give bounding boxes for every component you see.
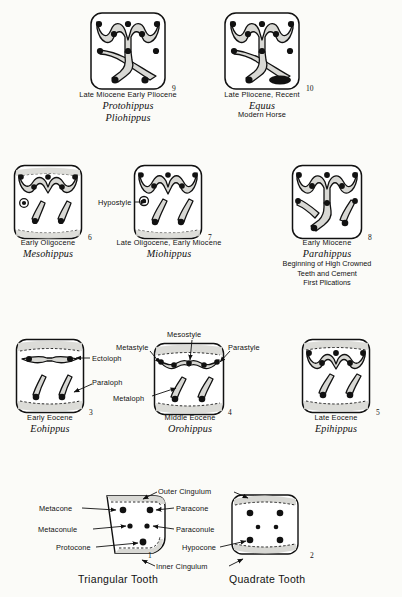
tooth-diagram-parahippus <box>290 163 364 241</box>
epihippus-svg <box>300 337 372 415</box>
eohippus-svg <box>14 337 86 415</box>
genus-note-2: Teeth and Cement <box>253 269 401 278</box>
epoch-label: Early Eocene <box>4 414 96 422</box>
cusp-paracone <box>147 507 154 514</box>
genus-note-3: First Plications <box>253 278 401 287</box>
genus-label: Parahippus <box>253 248 401 259</box>
epoch-label: Late Eocene <box>290 414 382 422</box>
tooth-diagram-eohippus <box>14 337 86 415</box>
tooth-diagram-epihippus <box>300 337 372 415</box>
cusp-hypocone <box>247 537 254 544</box>
cusp-paracone <box>277 510 284 517</box>
tooth-diagram-mesohippus <box>12 163 84 241</box>
caption-eohippus: Early Eocene Eohippus <box>4 414 96 434</box>
epoch-label: Late Pliocene, Recent <box>178 91 346 99</box>
genus-label: Epihippus <box>290 423 382 434</box>
caption-epihippus: Late Eocene Epihippus <box>290 414 382 434</box>
cusp-paraconule <box>274 525 279 530</box>
annotation-ectoloph: Ectoloph <box>92 354 122 363</box>
equus-enlarged-hypocone <box>269 75 291 84</box>
cusp-metacone <box>120 507 127 514</box>
equus-svg <box>222 10 302 92</box>
genus-label: Eohippus <box>4 423 96 434</box>
epoch-label: Early Miocene <box>253 239 401 247</box>
tooth-index-2: 2 <box>310 551 314 560</box>
mesohippus-hypostyle <box>20 199 29 208</box>
cusp-metaconule <box>256 525 261 530</box>
miohippus-svg <box>132 163 204 241</box>
epoch-label: Late Oligocene, Early Miocene <box>106 239 232 247</box>
cusp-metacone <box>247 510 254 517</box>
annotation-mesostyle: Mesostyle <box>167 330 201 339</box>
bottom-title-quadrate: Quadrate Tooth <box>229 573 305 585</box>
genus-common-name: Modern Horse <box>178 111 346 119</box>
caption-miohippus: Late Oligocene, Early Miocene Miohippus <box>106 239 232 259</box>
genus-note-1: Beginning of High Crowned <box>253 259 401 268</box>
tooth-diagram-miohippus <box>132 163 204 241</box>
annotation-paracone: Paracone <box>176 504 208 513</box>
caption-orohippus: Middle Eocene Orohippus <box>140 414 240 434</box>
protohippus-svg <box>88 10 168 92</box>
cusp-protocone <box>140 539 147 546</box>
tooth-index-1: 1 <box>148 551 152 560</box>
annotation-hypostyle: Hypostyle <box>98 198 131 207</box>
annotation-metaloph: Metaloph <box>113 394 144 403</box>
genus-label: Miohippus <box>106 248 232 259</box>
figure-root: 9 Late Miocene Early Pliocene Protohippu… <box>0 0 402 597</box>
tooth-diagram-quadrate <box>228 489 304 565</box>
genus-label: Orohippus <box>140 423 240 434</box>
annotation-hypocone: Hypocone <box>182 543 216 552</box>
annotation-metacone: Metacone <box>39 504 72 513</box>
tooth-diagram-equus <box>222 10 302 92</box>
tooth-diagram-orohippus <box>152 341 226 417</box>
miohippus-hypostyle <box>140 197 149 206</box>
triangular-svg <box>95 489 171 565</box>
genus-label: Mesohippus <box>0 248 96 259</box>
bottom-title-triangular: Triangular Tooth <box>78 573 158 585</box>
quadrate-svg <box>228 489 304 565</box>
annotation-parastyle: Parastyle <box>228 343 260 352</box>
cusp-protocone <box>277 537 284 544</box>
epoch-label: Middle Eocene <box>140 414 240 422</box>
annotation-paraloph: Paraloph <box>92 378 122 387</box>
mesohippus-svg <box>12 163 84 241</box>
orohippus-svg <box>152 341 226 417</box>
cusp-paraconule <box>144 523 149 528</box>
parahippus-svg <box>290 163 364 241</box>
cusp-metaconule <box>127 523 132 528</box>
tooth-diagram-protohippus <box>88 10 168 92</box>
annotation-inner-cingulum: Inner Cingulum <box>156 562 208 571</box>
epoch-label: Early Oligocene <box>0 239 96 247</box>
annotation-outer-cingulum: Outer Cingulum <box>158 487 211 496</box>
caption-equus: Late Pliocene, Recent Equus Modern Horse <box>178 91 346 119</box>
caption-parahippus: Early Miocene Parahippus Beginning of Hi… <box>253 239 401 287</box>
annotation-paraconule: Paraconule <box>176 525 214 534</box>
annotation-metaconule: Metaconule <box>38 525 77 534</box>
caption-mesohippus: Early Oligocene Mesohippus <box>0 239 96 259</box>
tooth-diagram-triangular <box>95 489 171 565</box>
annotation-protocone: Protocone <box>56 543 91 552</box>
annotation-metastyle: Metastyle <box>116 343 149 352</box>
